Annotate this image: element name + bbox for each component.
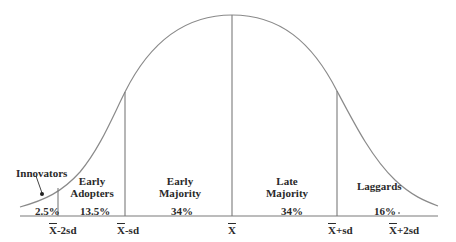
- label-late-majority-line2: Majority: [262, 187, 312, 199]
- label-early-adopters-line1: Early: [70, 175, 114, 187]
- tick-mean: X: [228, 224, 236, 236]
- percent-early-adopters: 13.5%: [80, 205, 110, 217]
- tick-x-minus-sd: X-sd: [117, 224, 139, 236]
- label-early-adopters: Early Adopters: [70, 175, 114, 199]
- innovators-dot: [40, 192, 44, 196]
- label-early-majority-line2: Majority: [155, 187, 205, 199]
- tick-x-plus-sd-xbar: X: [328, 224, 336, 236]
- tick-x-minus-2sd: X-2sd: [49, 224, 77, 236]
- tick-x-plus-2sd-suffix: +2sd: [397, 224, 419, 236]
- tick-x-plus-sd-suffix: +sd: [336, 224, 353, 236]
- tick-x-minus-2sd-suffix: -2sd: [57, 224, 77, 236]
- label-laggards: Laggards: [357, 180, 402, 192]
- label-early-majority-line1: Early: [155, 175, 205, 187]
- percent-late-majority: 34%: [281, 205, 303, 217]
- percent-early-majority: 34%: [171, 205, 193, 217]
- label-late-majority: Late Majority: [262, 175, 312, 199]
- tick-x-minus-sd-xbar: X: [117, 224, 125, 236]
- label-late-majority-line1: Late: [262, 175, 312, 187]
- label-innovators: Innovators: [16, 167, 67, 179]
- label-early-adopters-line2: Adopters: [70, 187, 114, 199]
- percent-innovators: 2.5%: [35, 205, 60, 217]
- percent-laggards: 16%: [374, 205, 396, 217]
- tick-x-plus-2sd-xbar: X: [389, 224, 397, 236]
- tick-mean-xbar: X: [228, 224, 236, 236]
- tick-x-plus-sd: X+sd: [328, 224, 353, 236]
- tick-x-minus-2sd-xbar: X: [49, 224, 57, 236]
- tick-x-minus-sd-suffix: -sd: [125, 224, 139, 236]
- label-early-majority: Early Majority: [155, 175, 205, 199]
- tick-x-plus-2sd: X+2sd: [389, 224, 419, 236]
